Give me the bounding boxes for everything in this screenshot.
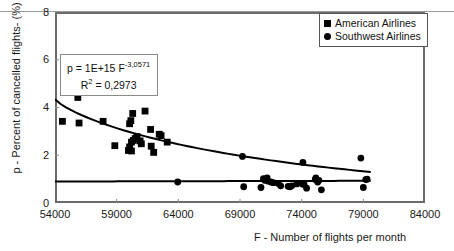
equation-prefix: p = 1E+15 F xyxy=(67,62,125,74)
r-squared-value: = 0,2973 xyxy=(95,78,136,90)
data-point xyxy=(147,126,154,133)
data-point xyxy=(240,183,247,190)
series-american-airlines-points xyxy=(59,85,171,155)
data-point xyxy=(362,176,369,183)
data-point xyxy=(111,142,118,149)
y-axis-title-wrapper: p - Percent of cancelled flights- (%) xyxy=(0,0,20,191)
data-point xyxy=(148,143,155,150)
data-point xyxy=(258,184,265,191)
data-point xyxy=(129,110,136,117)
x-tick-label: 54000 xyxy=(25,209,85,220)
data-point xyxy=(239,153,246,160)
equation-annotation-box: p = 1E+15 F-3,0571 R2 = 0,2973 xyxy=(60,54,158,96)
r-squared-line: R2 = 0,2973 xyxy=(67,75,150,92)
y-tick-label: 6 xyxy=(21,54,49,65)
data-point xyxy=(127,117,134,124)
data-point xyxy=(174,179,181,186)
x-tick-label: 69000 xyxy=(210,209,270,220)
trendlines-group xyxy=(55,99,371,181)
data-point xyxy=(150,149,157,156)
trendline-american-airlines xyxy=(55,99,371,172)
data-point xyxy=(100,118,107,125)
data-point xyxy=(300,159,307,166)
x-tick-label: 59000 xyxy=(87,209,147,220)
data-point xyxy=(158,132,165,139)
r-superscript: 2 xyxy=(88,77,92,86)
y-tick-label: 8 xyxy=(21,7,49,18)
legend-item-american-airlines: American Airlines xyxy=(324,17,421,30)
x-tick-label: 84000 xyxy=(395,209,454,220)
x-tick-label: 64000 xyxy=(148,209,208,220)
data-point xyxy=(293,181,300,188)
legend-label-american-airlines: American Airlines xyxy=(335,18,416,29)
x-axis-title: F - Number of flights per month xyxy=(230,231,430,243)
circle-marker-icon xyxy=(324,33,331,40)
legend-item-southwest-airlines: Southwest Airlines xyxy=(324,30,421,43)
data-point xyxy=(360,184,367,191)
y-tick-label: 4 xyxy=(21,102,49,113)
series-southwest-airlines-points xyxy=(174,153,370,193)
data-point xyxy=(128,148,135,155)
data-point xyxy=(76,120,83,127)
data-point xyxy=(357,155,364,162)
data-point xyxy=(318,186,325,193)
trendline-southwest-airlines xyxy=(55,181,371,182)
equation-exponent: -3,0571 xyxy=(125,60,150,69)
data-point xyxy=(142,108,149,115)
y-tick-label: 2 xyxy=(21,150,49,161)
data-point xyxy=(316,177,323,184)
data-point xyxy=(303,185,310,192)
y-tick-label: 0 xyxy=(21,198,49,209)
equation-line: p = 1E+15 F-3,0571 xyxy=(67,58,150,75)
data-point xyxy=(164,139,171,146)
square-marker-icon xyxy=(324,20,331,27)
x-tick-label: 79000 xyxy=(333,209,393,220)
data-point xyxy=(59,118,66,125)
data-point xyxy=(138,140,145,147)
chart-page: p - Percent of cancelled flights- (%) 02… xyxy=(0,0,454,251)
chart-legend: American Airlines Southwest Airlines xyxy=(319,13,428,47)
x-tick-label: 74000 xyxy=(272,209,332,220)
legend-label-southwest-airlines: Southwest Airlines xyxy=(335,31,421,42)
data-point xyxy=(277,182,284,189)
